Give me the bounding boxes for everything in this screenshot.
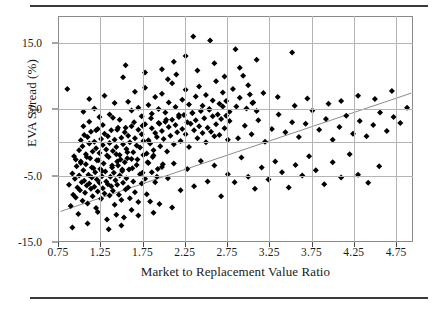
scatter-point	[247, 91, 253, 97]
bottom-rule	[30, 297, 428, 299]
scatter-point	[156, 201, 162, 207]
scatter-point	[107, 192, 113, 198]
scatter-point	[254, 57, 260, 63]
scatter-point	[255, 117, 261, 123]
scatter-point	[193, 117, 199, 123]
scatter-point	[173, 71, 179, 77]
scatter-point	[289, 50, 295, 56]
scatter-point	[237, 65, 243, 71]
scatter-point	[74, 163, 80, 169]
scatter-point	[64, 86, 70, 92]
scatter-point	[117, 117, 123, 123]
scatter-point	[357, 118, 363, 124]
scatter-point	[210, 97, 216, 103]
scatter-point	[80, 198, 86, 204]
scatter-point	[161, 136, 167, 142]
scatter-point	[101, 190, 107, 196]
scatter-point	[134, 157, 140, 163]
x-tick-label: 2.25	[174, 246, 195, 258]
scatter-point	[208, 129, 214, 135]
plot-area	[58, 16, 413, 242]
scatter-point	[292, 103, 298, 109]
scatter-point	[336, 124, 342, 130]
gridline-vertical	[100, 16, 101, 242]
scatter-point	[151, 210, 157, 216]
scatter-point	[389, 88, 395, 94]
scatter-point	[338, 98, 344, 104]
scatter-point	[120, 74, 126, 80]
scatter-point	[220, 89, 226, 95]
scatter-point	[296, 134, 302, 140]
scatter-point	[293, 162, 299, 168]
scatter-point	[171, 161, 177, 167]
x-tick-label: 4.75	[386, 246, 407, 258]
scatter-point	[75, 211, 81, 217]
scatter-point	[189, 110, 195, 116]
scatter-point	[235, 135, 241, 141]
scatter-point	[130, 149, 136, 155]
scatter-point	[151, 147, 157, 153]
scatter-point	[376, 163, 382, 169]
scatter-point	[372, 96, 378, 102]
scatter-point	[218, 193, 224, 199]
scatter-point	[213, 121, 219, 127]
scatter-point	[80, 167, 86, 173]
scatter-point	[68, 203, 74, 209]
scatter-point	[233, 46, 239, 52]
scatter-point	[370, 122, 376, 128]
scatter-point	[123, 62, 129, 68]
scatter-point	[149, 125, 155, 131]
scatter-point	[364, 133, 370, 139]
scatter-point	[259, 165, 265, 171]
scatter-point	[162, 109, 168, 115]
scatter-point	[200, 103, 206, 109]
scatter-point	[66, 182, 72, 188]
scatter-point	[321, 181, 327, 187]
scatter-point	[169, 80, 175, 86]
x-axis-title: Market to Replacement Value Ratio	[58, 264, 413, 280]
scatter-point	[148, 115, 154, 121]
scatter-point	[203, 92, 209, 98]
gridline-horizontal	[58, 43, 413, 44]
scatter-point	[135, 127, 141, 133]
scatter-point	[218, 116, 224, 122]
scatter-point	[157, 143, 163, 149]
scatter-point	[196, 123, 202, 129]
scatter-point	[245, 82, 251, 88]
scatter-point	[101, 93, 107, 99]
x-tick-label: 4.25	[343, 246, 364, 258]
scatter-point	[194, 135, 200, 141]
scatter-point	[282, 129, 288, 135]
scatter-point	[213, 78, 219, 84]
x-tick-label: 3.25	[259, 246, 280, 258]
scatter-point	[169, 117, 175, 123]
scatter-point	[384, 128, 390, 134]
scatter-point	[237, 95, 243, 101]
scatter-point	[238, 155, 244, 161]
scatter-point	[108, 127, 114, 133]
scatter-point	[343, 113, 349, 119]
gridline-horizontal	[58, 109, 413, 110]
scatter-point	[159, 66, 165, 72]
scatter-point	[242, 123, 248, 129]
scatter-point	[85, 220, 91, 226]
scatter-point	[171, 59, 177, 65]
scatter-point	[194, 68, 200, 74]
scatter-point	[113, 144, 119, 150]
scatter-point	[186, 144, 192, 150]
scatter-point	[82, 190, 88, 196]
scatter-point	[86, 119, 92, 125]
scatter-point	[205, 125, 211, 131]
scatter-point	[135, 212, 141, 218]
gridline-vertical	[227, 16, 228, 242]
scatter-point	[86, 96, 92, 102]
x-tick-label: 1.75	[132, 246, 153, 258]
gridline-vertical	[143, 16, 144, 242]
scatter-point	[286, 184, 292, 190]
scatter-point	[172, 122, 178, 128]
scatter-point	[106, 226, 112, 232]
scatter-point	[211, 133, 217, 139]
scatter-point	[303, 121, 309, 127]
gridline-horizontal	[58, 176, 413, 177]
scatter-point	[120, 180, 126, 186]
